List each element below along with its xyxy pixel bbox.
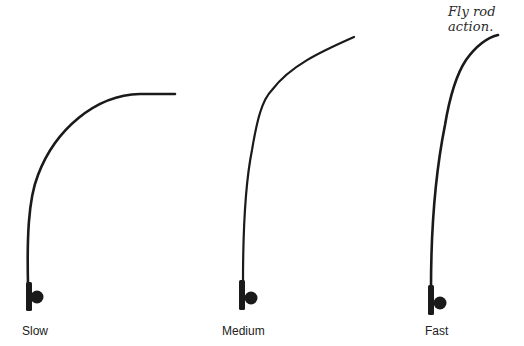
rod-diagram bbox=[0, 0, 524, 346]
slow-rod-blank bbox=[28, 94, 175, 284]
slow-rod bbox=[26, 94, 175, 311]
medium-rod bbox=[239, 37, 354, 310]
medium-rod-blank bbox=[243, 37, 354, 282]
label-fast: Fast bbox=[425, 324, 448, 338]
label-slow: Slow bbox=[22, 324, 48, 338]
slow-reel-icon bbox=[31, 291, 44, 304]
fast-reel-icon bbox=[434, 297, 447, 310]
fast-rod-blank bbox=[431, 35, 498, 288]
medium-rod-grip bbox=[239, 280, 245, 310]
fast-rod bbox=[428, 35, 498, 315]
medium-reel-icon bbox=[245, 292, 258, 305]
fast-rod-grip bbox=[428, 285, 434, 315]
label-medium: Medium bbox=[222, 324, 265, 338]
